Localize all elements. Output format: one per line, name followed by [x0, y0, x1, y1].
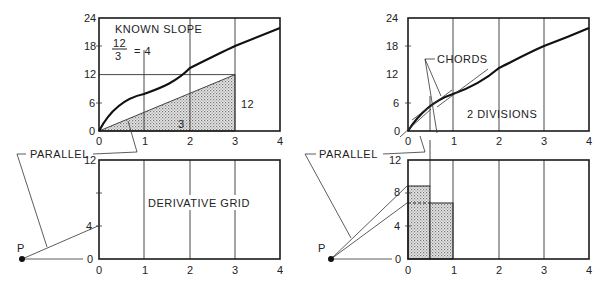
left-bottom-chart: DERIVATIVE GRID 12 4 0 0 1 2 3 4 P PARAL…: [17, 121, 283, 276]
chords-leader-1: [425, 59, 437, 133]
derivative-grid-frame: [99, 160, 280, 259]
fraction-denominator: 3: [115, 50, 122, 62]
slope-triangle: [99, 75, 235, 131]
parallel-label: PARALLEL: [319, 148, 378, 160]
x-tick: 0: [405, 135, 411, 147]
chord-2: [412, 90, 452, 120]
bar-division-2: [430, 203, 453, 259]
pole-label: P: [318, 242, 326, 254]
parallel-leader-right: [383, 136, 425, 154]
y-tick: 18: [386, 40, 398, 52]
y-tick: 4: [394, 220, 400, 232]
x-tick: 4: [277, 264, 283, 276]
x-tick: 1: [451, 135, 457, 147]
x-tick: 4: [277, 135, 283, 147]
y-tick: 0: [394, 125, 400, 137]
chords-label: CHORDS: [437, 53, 488, 65]
x-tick: 3: [232, 135, 238, 147]
parallel-label: PARALLEL: [30, 148, 89, 160]
y-tick: 24: [84, 12, 96, 24]
x-tick: 2: [187, 135, 193, 147]
run-label: 3: [178, 118, 185, 130]
y-tick: 18: [84, 40, 96, 52]
pole-point: [328, 256, 334, 262]
x-tick: 0: [96, 135, 102, 147]
x-tick: 4: [586, 264, 592, 276]
x-tick: 1: [142, 135, 148, 147]
y-tick: 0: [87, 253, 93, 265]
x-tick: 2: [496, 135, 502, 147]
x-tick: 0: [405, 264, 411, 276]
parallel-leader-left: [305, 154, 351, 238]
right-top-chart: CHORDS 2 DIVISIONS 24 18 12 6 0 0 1 2 3 …: [386, 12, 592, 147]
y-tick: 12: [84, 68, 96, 80]
y-tick: 6: [393, 97, 399, 109]
x-tick: 4: [586, 135, 592, 147]
y-tick: 6: [89, 97, 95, 109]
y-tick: 12: [389, 154, 401, 166]
divisions-label: 2 DIVISIONS: [467, 108, 537, 120]
x-tick: 3: [541, 135, 547, 147]
x-tick: 0: [96, 264, 102, 276]
x-tick: 3: [541, 264, 547, 276]
y-tick: 24: [386, 12, 398, 24]
left-top-chart: 24 18 12 6 0 0 1 2 3 4 KNOWN SLOPE 12 3 …: [84, 12, 283, 147]
chord-1: [400, 109, 431, 137]
y-tick: 0: [395, 253, 401, 265]
right-bottom-chart: 12 8 4 0 0 1 2 3 4 P PARALLEL: [305, 136, 592, 276]
y-tick: 12: [386, 68, 398, 80]
pole-label: P: [17, 242, 25, 254]
x-tick: 3: [232, 264, 238, 276]
fraction-numerator: 12: [113, 37, 126, 49]
x-tick: 2: [496, 264, 502, 276]
derivative-grid-label: DERIVATIVE GRID: [148, 197, 250, 209]
rise-label: 12: [241, 98, 254, 110]
y-tick: 8: [394, 186, 400, 198]
bar-division-1: [408, 186, 430, 259]
x-tick: 1: [451, 264, 457, 276]
x-tick: 1: [142, 264, 148, 276]
known-slope-label: KNOWN SLOPE: [115, 23, 202, 35]
parallel-leader-left: [17, 154, 47, 247]
x-tick: 2: [187, 264, 193, 276]
pole-point: [19, 256, 25, 262]
y-tick: 0: [89, 125, 95, 137]
chord-3: [437, 69, 488, 107]
diagram-canvas: 24 18 12 6 0 0 1 2 3 4 KNOWN SLOPE 12 3 …: [0, 0, 596, 286]
fraction-result: = 4: [134, 45, 151, 57]
